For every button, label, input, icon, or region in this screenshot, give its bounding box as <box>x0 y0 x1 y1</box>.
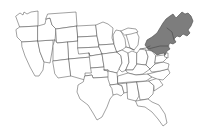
state-georgia[interactable] <box>137 81 154 100</box>
united-states-map <box>0 0 210 139</box>
state-florida[interactable] <box>136 99 167 126</box>
state-oregon[interactable] <box>16 26 38 42</box>
state-wyoming[interactable] <box>56 26 78 43</box>
state-north-dakota[interactable] <box>77 25 97 37</box>
state-utah[interactable] <box>53 40 69 61</box>
northeast-region-highlight[interactable] <box>145 12 193 55</box>
state-arizona[interactable] <box>53 59 71 78</box>
us-region-map-figure <box>0 0 210 139</box>
state-minnesota[interactable] <box>96 22 114 45</box>
state-south-dakota[interactable] <box>78 36 99 48</box>
state-washington[interactable] <box>16 11 38 27</box>
